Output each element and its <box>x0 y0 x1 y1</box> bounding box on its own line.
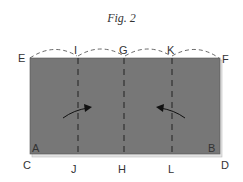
label-l: L <box>168 163 174 175</box>
fold-arc-k-f <box>172 49 219 58</box>
label-b: B <box>208 142 215 154</box>
label-k: K <box>167 44 175 56</box>
label-h: H <box>118 163 126 175</box>
paper-rectangle <box>30 58 220 154</box>
fold-diagram: E I G K F A B C J H L D <box>0 0 243 182</box>
label-e: E <box>18 52 25 64</box>
fold-arc-e-i <box>30 49 77 58</box>
fold-arc-g-k <box>125 49 171 56</box>
label-i: I <box>74 44 77 56</box>
label-d: D <box>221 159 229 171</box>
label-c: C <box>23 159 31 171</box>
label-a: A <box>32 142 40 154</box>
fold-arc-i-g <box>78 49 124 56</box>
label-f: F <box>222 53 229 65</box>
label-g: G <box>119 44 128 56</box>
label-j: J <box>71 163 77 175</box>
